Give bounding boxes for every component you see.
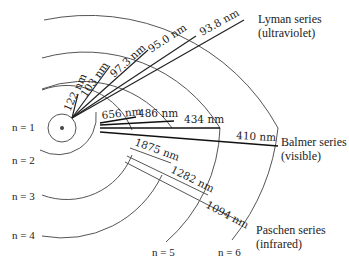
label-97-3nm: 97.3 nm — [107, 41, 147, 79]
orbit-n3 — [42, 85, 132, 199]
level-label-n4: n = 4 — [12, 229, 35, 241]
label-1282nm: 1282 nm — [169, 163, 216, 194]
label-410nm: 410 nm — [236, 129, 277, 143]
level-label-n2: n = 2 — [12, 154, 35, 166]
level-label-n5: n = 5 — [152, 246, 175, 258]
energy-level-diagram: 122 nm 103 nm 97.3 nm 95.0 nm 93.8 nm 65… — [0, 0, 349, 268]
orbit-n2 — [40, 112, 96, 155]
balmer-series-region: (visible) — [281, 149, 321, 163]
level-label-n6: n = 6 — [218, 246, 241, 258]
level-label-n3: n = 3 — [12, 190, 35, 202]
paschen-series-region: (infrared) — [256, 237, 302, 251]
label-1094nm: 1094 nm — [204, 198, 251, 231]
label-95-0nm: 95.0 nm — [146, 21, 189, 55]
balmer-series-name: Balmer series — [281, 135, 347, 149]
level-label-n1: n = 1 — [12, 121, 35, 133]
orbit-n5 — [42, 52, 220, 242]
label-656nm: 656 nm — [101, 105, 142, 121]
label-486nm: 486 nm — [138, 107, 178, 119]
label-434nm: 434 nm — [184, 113, 224, 125]
lyman-series-name: Lyman series — [258, 12, 322, 26]
label-93-8nm: 93.8 nm — [197, 6, 241, 38]
nucleus — [60, 126, 64, 130]
lyman-series-region: (ultraviolet) — [258, 26, 315, 40]
label-1875nm: 1875 nm — [133, 136, 181, 163]
paschen-series-name: Paschen series — [256, 223, 326, 237]
